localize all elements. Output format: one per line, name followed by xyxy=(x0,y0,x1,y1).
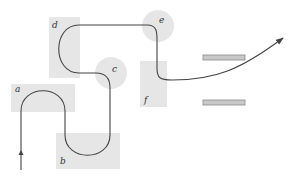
label-d: d xyxy=(52,20,58,30)
label-c: c xyxy=(112,64,117,74)
upper-bar xyxy=(203,55,245,60)
label-b: b xyxy=(60,156,66,166)
region-a xyxy=(11,84,75,112)
label-e: e xyxy=(159,15,164,25)
region-e xyxy=(142,10,174,42)
trajectory-diagram: a b c d e f xyxy=(0,0,297,178)
lower-bar xyxy=(203,100,245,105)
label-a: a xyxy=(15,84,20,94)
